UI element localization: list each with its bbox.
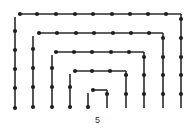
chain-dot — [179, 55, 183, 59]
ring-5 — [86, 88, 109, 109]
chain-dot — [92, 31, 96, 35]
chain-dot — [142, 73, 146, 77]
chain-dot — [13, 86, 17, 90]
chain-dot — [35, 12, 39, 16]
chain-dot — [13, 67, 17, 71]
chain-dot — [129, 31, 133, 35]
chain-dot — [161, 92, 165, 96]
chain-dot — [13, 29, 17, 33]
chain-dot — [111, 31, 115, 35]
chain-dot — [91, 12, 95, 16]
chain-dot — [31, 105, 35, 109]
chain-dot — [31, 66, 35, 70]
chain-dot — [146, 12, 150, 16]
chain-dot — [55, 31, 59, 35]
chain-dot — [179, 17, 183, 21]
chain-dot — [50, 66, 54, 70]
chain-dot — [72, 50, 76, 54]
ring-3 — [50, 50, 146, 109]
chain-dot — [164, 12, 168, 16]
chain-dot — [91, 88, 95, 92]
ring-4 — [68, 69, 128, 109]
chain-dot — [18, 12, 22, 16]
chain-dot — [128, 12, 132, 16]
chain-dot — [90, 50, 94, 54]
chain-dot — [68, 105, 72, 109]
chain-dot — [179, 92, 183, 96]
chain-dot — [50, 85, 54, 89]
chain-dot — [124, 92, 128, 96]
chain-dot — [161, 36, 165, 40]
chain-dot — [31, 85, 35, 89]
chain-dot — [108, 69, 112, 73]
chain-dot — [127, 50, 131, 54]
chain-dot — [147, 31, 151, 35]
chain-dot — [161, 55, 165, 59]
chain-dot — [110, 12, 114, 16]
chain-dot — [50, 105, 54, 109]
chain-dot — [105, 92, 109, 96]
ring-2 — [31, 31, 165, 109]
figure-caption: 5 — [0, 115, 193, 125]
chain-dot — [54, 12, 58, 16]
chain-dot — [161, 73, 165, 77]
chain-dot — [109, 50, 113, 54]
chain-dot — [73, 69, 77, 73]
chain-dot — [13, 106, 17, 110]
chain-dot — [31, 47, 35, 51]
chain-dot — [142, 55, 146, 59]
chain-dot — [74, 31, 78, 35]
chain-dot — [90, 69, 94, 73]
chain-dot — [86, 105, 90, 109]
chain-dot — [142, 92, 146, 96]
chain-dot — [68, 85, 72, 89]
chain-dot — [54, 50, 58, 54]
chain-dot — [179, 36, 183, 40]
chain-dot — [73, 12, 77, 16]
chain-dot — [13, 48, 17, 52]
chain-dot — [37, 31, 41, 35]
chain-dot — [179, 73, 183, 77]
ring-1 — [13, 12, 183, 110]
chain-dot — [124, 73, 128, 77]
